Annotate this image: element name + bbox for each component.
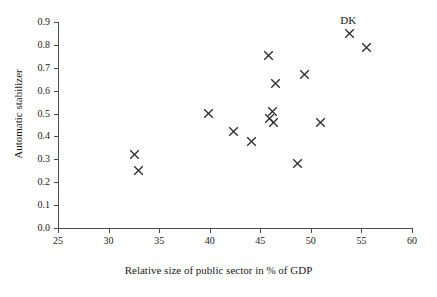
- point-label-dk: DK: [340, 15, 356, 26]
- x-axis-tick: [260, 229, 261, 233]
- y-axis-tick-label: 0.8: [24, 40, 50, 50]
- y-axis-title: Automatic stabilizer: [12, 39, 24, 189]
- y-axis-tick: [54, 114, 58, 115]
- y-axis-tick-label: 0.5: [24, 109, 50, 119]
- data-point-marker: [203, 108, 214, 119]
- y-axis-tick-label: 0.4: [24, 131, 50, 141]
- data-point-marker: [292, 158, 303, 169]
- data-point-marker: [246, 136, 257, 147]
- x-axis-tick-label: 45: [245, 236, 275, 246]
- data-point-marker: [361, 42, 372, 53]
- data-point-marker: [263, 50, 274, 61]
- y-axis-tick: [54, 159, 58, 160]
- data-point-marker: [267, 106, 278, 117]
- data-point-marker: [299, 69, 310, 80]
- y-axis-tick: [54, 136, 58, 137]
- x-axis-tick-label: 50: [296, 236, 326, 246]
- y-axis-tick: [54, 205, 58, 206]
- x-axis-tick: [210, 229, 211, 233]
- y-axis-tick-label: 0.0: [24, 223, 50, 233]
- y-axis-tick-label: 0.2: [24, 177, 50, 187]
- x-axis-tick-label: 30: [94, 236, 124, 246]
- y-axis-tick: [54, 68, 58, 69]
- y-axis-tick-label: 0.9: [24, 17, 50, 27]
- data-point-marker: [228, 126, 239, 137]
- y-axis-tick: [54, 22, 58, 23]
- scatter-chart: 0.00.10.20.30.40.50.60.70.80.9 253035404…: [0, 0, 437, 297]
- x-axis-title: Relative size of public sector in % of G…: [0, 264, 437, 276]
- x-axis-tick: [311, 229, 312, 233]
- x-axis-tick: [361, 229, 362, 233]
- y-axis-tick-label: 0.6: [24, 86, 50, 96]
- y-axis-tick-labels: 0.00.10.20.30.40.50.60.70.80.9: [20, 0, 50, 297]
- x-axis-tick-label: 35: [144, 236, 174, 246]
- y-axis-tick-label: 0.3: [24, 154, 50, 164]
- x-axis-tick: [109, 229, 110, 233]
- data-point-marker: [264, 113, 275, 124]
- data-point-marker: [315, 117, 326, 128]
- y-axis-line: [58, 22, 59, 229]
- y-axis-tick: [54, 182, 58, 183]
- y-axis-tick: [54, 91, 58, 92]
- x-axis-tick-label: 40: [195, 236, 225, 246]
- x-axis-tick-label: 25: [43, 236, 73, 246]
- data-point-marker: [133, 165, 144, 176]
- x-axis-line: [58, 228, 413, 229]
- data-point-marker: [129, 149, 140, 160]
- y-axis-tick-label: 0.7: [24, 63, 50, 73]
- x-axis-tick-label: 60: [397, 236, 427, 246]
- x-axis-tick: [159, 229, 160, 233]
- x-axis-tick: [412, 229, 413, 233]
- data-point-marker: [270, 78, 281, 89]
- data-point-marker: [344, 28, 355, 39]
- x-axis-tick-label: 55: [346, 236, 376, 246]
- y-axis-tick-label: 0.1: [24, 200, 50, 210]
- x-axis-tick: [58, 229, 59, 233]
- data-point-marker: [268, 117, 279, 128]
- y-axis-tick: [54, 45, 58, 46]
